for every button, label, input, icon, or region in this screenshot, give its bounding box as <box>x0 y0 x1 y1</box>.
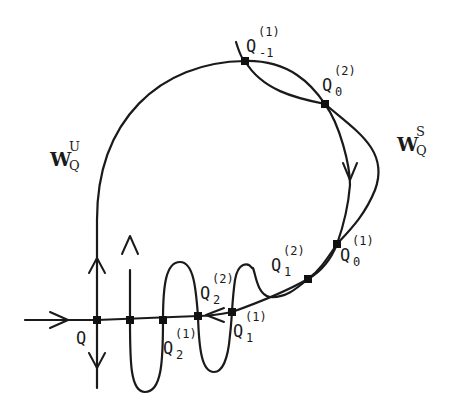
point-q1-2 <box>304 275 312 283</box>
point-q1-1 <box>228 308 236 316</box>
stable-manifold-curve <box>25 42 350 320</box>
label-q0-1: Q (1) 0 <box>340 247 350 264</box>
homoclinic-tangle-diagram <box>0 0 449 415</box>
point-q2-2 <box>194 312 202 320</box>
point-q2-1 <box>159 316 167 324</box>
label-q: Q <box>76 330 86 347</box>
point-intersection <box>126 316 134 324</box>
label-unstable-manifold: W U Q <box>50 150 71 169</box>
label-q1-1: Q (1) 1 <box>233 323 243 340</box>
point-q0-2 <box>321 100 329 108</box>
label-q2-1: Q (1) 2 <box>163 340 173 357</box>
label-q2-2: Q (2) 2 <box>200 285 210 302</box>
label-qm1-1: Q (1) -1 <box>246 38 256 55</box>
label-q1-2: Q (2) 1 <box>271 257 281 274</box>
point-q <box>93 316 101 324</box>
label-q0-2: Q (2) 0 <box>322 77 332 94</box>
arrow-up-icon <box>122 236 138 254</box>
unstable-manifold-curve <box>97 61 379 392</box>
point-qm1-1 <box>241 57 249 65</box>
label-stable-manifold: W S Q <box>397 135 418 154</box>
